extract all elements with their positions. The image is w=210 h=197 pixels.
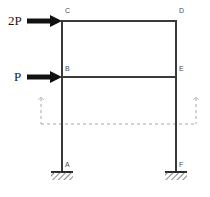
support-A: [51, 172, 73, 180]
frame-canvas: 2P P C D B E A F: [0, 0, 210, 197]
node-label-b: B: [65, 65, 70, 72]
frame-members: [62, 20, 176, 172]
node-label-f: F: [179, 161, 183, 168]
load-label-p: P: [14, 69, 21, 84]
support-F-hatch-icon: [165, 172, 187, 180]
load-arrow-p-icon: [27, 71, 62, 83]
load-2p-arrowhead: [50, 15, 62, 27]
node-label-d: D: [179, 7, 184, 14]
load-arrow-2p-icon: [27, 15, 62, 27]
support-F: [165, 172, 187, 180]
node-label-a: A: [65, 161, 70, 168]
node-label-c: C: [65, 7, 70, 14]
load-label-2p: 2P: [8, 13, 22, 28]
load-p-arrowhead: [50, 71, 62, 83]
load-p-shaft: [27, 75, 52, 80]
node-label-e: E: [179, 65, 184, 72]
structural-frame-diagram: 2P P C D B E A F: [0, 0, 210, 197]
support-A-hatch-icon: [51, 172, 73, 180]
load-2p-shaft: [27, 19, 52, 24]
